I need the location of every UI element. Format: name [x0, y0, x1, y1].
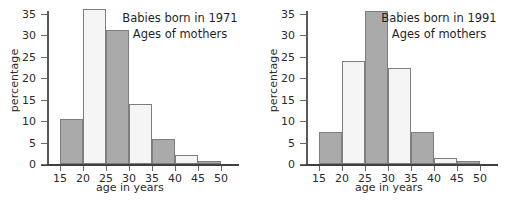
y-tick-25 — [41, 57, 47, 58]
y-tick-label-25: 25 — [14, 52, 36, 63]
y-tick-15 — [300, 100, 306, 101]
y-tick-label-20: 20 — [14, 73, 36, 84]
y-tick-label-30: 30 — [273, 30, 295, 41]
annotation-title: Babies born in 1971 — [105, 10, 255, 26]
x-axis-label: age in years — [96, 181, 246, 194]
bar-20-25 — [342, 61, 365, 164]
histogram-pair-figure: percentage 0 5 10 15 20 25 30 35 — [0, 0, 517, 201]
y-tick-label-30: 30 — [14, 30, 36, 41]
bar-15-20 — [319, 132, 342, 164]
y-tick-5 — [300, 143, 306, 144]
y-tick-20 — [300, 78, 306, 79]
y-tick-15 — [41, 100, 47, 101]
x-tick-40 — [175, 166, 176, 171]
x-tick-20 — [83, 166, 84, 171]
bar-35-40 — [152, 139, 175, 164]
x-tick-20 — [342, 166, 343, 171]
x-tick-35 — [152, 166, 153, 171]
x-tick-label-15: 15 — [49, 173, 71, 184]
y-tick-20 — [41, 78, 47, 79]
chart-panel-1971: percentage 0 5 10 15 20 25 30 35 — [0, 0, 258, 201]
y-tick-10 — [300, 121, 306, 122]
annotation-subtitle: Ages of mothers — [105, 26, 255, 42]
x-axis-line — [300, 164, 498, 166]
y-tick-label-5: 5 — [273, 138, 295, 149]
bar-15-20 — [60, 119, 83, 164]
x-tick-50 — [480, 166, 481, 171]
y-tick-label-0: 0 — [14, 159, 36, 170]
y-tick-label-25: 25 — [273, 52, 295, 63]
chart-annotation-1971: Babies born in 1971 Ages of mothers — [105, 10, 255, 42]
y-tick-30 — [300, 35, 306, 36]
y-tick-label-15: 15 — [14, 95, 36, 106]
x-tick-30 — [129, 166, 130, 171]
y-tick-35 — [41, 14, 47, 15]
x-tick-25 — [106, 166, 107, 171]
y-tick-label-20: 20 — [273, 73, 295, 84]
bar-45-50 — [198, 161, 221, 164]
y-tick-0 — [41, 164, 47, 165]
bar-20-25 — [83, 9, 106, 164]
y-tick-label-35: 35 — [273, 9, 295, 20]
x-tick-label-15: 15 — [308, 173, 330, 184]
y-tick-10 — [41, 121, 47, 122]
y-tick-label-0: 0 — [273, 159, 295, 170]
x-tick-15 — [319, 166, 320, 171]
x-tick-45 — [198, 166, 199, 171]
x-tick-label-20: 20 — [331, 173, 353, 184]
x-tick-30 — [388, 166, 389, 171]
x-tick-40 — [434, 166, 435, 171]
y-tick-30 — [41, 35, 47, 36]
bar-40-45 — [175, 155, 198, 164]
y-tick-label-5: 5 — [14, 138, 36, 149]
y-tick-35 — [300, 14, 306, 15]
y-axis-line — [306, 11, 308, 166]
bar-30-35 — [129, 104, 152, 164]
y-tick-5 — [41, 143, 47, 144]
y-axis-line — [47, 11, 49, 166]
annotation-title: Babies born in 1991 — [364, 10, 514, 26]
y-tick-label-10: 10 — [14, 116, 36, 127]
x-tick-25 — [365, 166, 366, 171]
x-tick-45 — [457, 166, 458, 171]
bar-35-40 — [411, 132, 434, 164]
x-tick-label-20: 20 — [72, 173, 94, 184]
bar-25-30 — [106, 30, 129, 164]
y-tick-25 — [300, 57, 306, 58]
x-axis-label: age in years — [355, 181, 505, 194]
annotation-subtitle: Ages of mothers — [364, 26, 514, 42]
y-tick-label-35: 35 — [14, 9, 36, 20]
y-tick-label-15: 15 — [273, 95, 295, 106]
bar-45-50 — [457, 161, 480, 164]
x-tick-15 — [60, 166, 61, 171]
x-tick-35 — [411, 166, 412, 171]
x-tick-50 — [221, 166, 222, 171]
chart-annotation-1991: Babies born in 1991 Ages of mothers — [364, 10, 514, 42]
y-tick-0 — [300, 164, 306, 165]
bar-30-35 — [388, 68, 411, 164]
y-tick-label-10: 10 — [273, 116, 295, 127]
chart-panel-1991: percentage 0 5 10 15 20 25 30 35 — [259, 0, 517, 201]
x-axis-line — [41, 164, 239, 166]
bar-40-45 — [434, 158, 457, 164]
